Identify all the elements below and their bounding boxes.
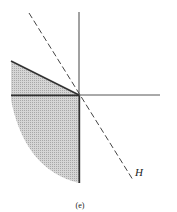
figure-caption: (e) [76, 201, 85, 210]
line-label-h: H [134, 166, 144, 178]
shaded-region [11, 61, 79, 183]
figure-canvas: H (e) [0, 0, 177, 212]
